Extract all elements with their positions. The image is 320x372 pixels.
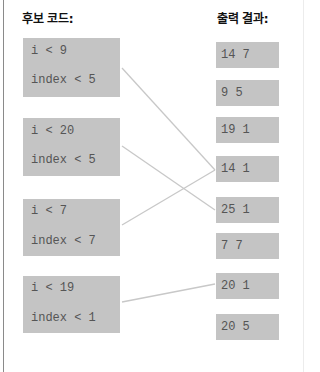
output-box[interactable]: 14 1 — [216, 156, 279, 182]
candidate-line: index < 5 — [31, 73, 96, 87]
candidate-box[interactable]: i < 20 index < 5 — [23, 118, 120, 176]
output-box[interactable]: 20 1 — [216, 273, 279, 299]
output-box[interactable]: 19 1 — [216, 117, 279, 143]
candidate-line: index < 7 — [31, 234, 96, 248]
output-box[interactable]: 14 7 — [216, 42, 279, 68]
output-box[interactable]: 20 5 — [216, 314, 279, 340]
candidate-box[interactable]: i < 7 index < 7 — [23, 199, 120, 256]
candidate-box[interactable]: i < 9 index < 5 — [23, 38, 120, 97]
connection-line — [122, 284, 215, 302]
candidate-line: i < 20 — [31, 124, 74, 138]
output-box[interactable]: 25 1 — [216, 197, 279, 223]
output-box[interactable]: 9 5 — [216, 80, 279, 106]
candidate-line: i < 9 — [31, 44, 67, 58]
candidate-line: i < 19 — [31, 281, 74, 295]
candidate-line: index < 1 — [31, 311, 96, 325]
candidate-line: i < 7 — [31, 204, 67, 218]
connection-line — [122, 68, 215, 170]
candidate-line: index < 5 — [31, 153, 96, 167]
candidate-box[interactable]: i < 19 index < 1 — [23, 276, 120, 333]
output-box[interactable]: 7 7 — [216, 233, 279, 259]
